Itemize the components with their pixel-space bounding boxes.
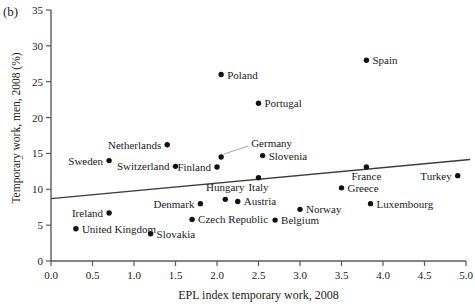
x-tick-label: 4.5 (418, 269, 432, 281)
data-point (272, 217, 277, 222)
data-point-label: Slovakia (157, 228, 196, 240)
data-point-label: Italy (248, 181, 268, 193)
data-point (260, 153, 265, 158)
y-axis-title: Temporary work, men, 2008 (%) (10, 28, 22, 228)
data-point-label: Switzerland (117, 160, 170, 172)
x-tick-label: 2.5 (252, 269, 266, 281)
label-leader-lines (224, 146, 248, 154)
data-point (256, 101, 261, 106)
y-tick-label: 25 (21, 76, 43, 88)
x-tick-label: 5.0 (459, 269, 473, 281)
data-point-label: Portugal (265, 97, 302, 109)
data-point (235, 199, 240, 204)
data-point-label: Luxembourg (377, 198, 434, 210)
data-point (165, 142, 170, 147)
plot-canvas (0, 0, 475, 306)
x-tick-label: 3.0 (293, 269, 307, 281)
data-point-label: France (351, 170, 381, 182)
data-point (106, 158, 111, 163)
data-point-label: Hungary (206, 181, 245, 193)
data-point (256, 175, 261, 180)
y-tick-label: 15 (21, 147, 43, 159)
data-point-label: Czech Republic (198, 213, 268, 225)
data-point (364, 58, 369, 63)
data-point-label: Austria (244, 195, 276, 207)
data-point (339, 185, 344, 190)
data-point (223, 197, 228, 202)
data-point-label: Germany (251, 137, 292, 149)
data-point (106, 210, 111, 215)
y-tick-label: 30 (21, 40, 43, 52)
data-point-label: Netherlands (108, 139, 161, 151)
x-tick-label: 1.0 (127, 269, 141, 281)
data-point-label: Poland (227, 69, 258, 81)
data-point-label: Sweden (68, 155, 103, 167)
data-point-label: Norway (306, 203, 341, 215)
scatter-plot-figure: (b) 05101520253035 0.00.51.01.52.02.53.0… (0, 0, 475, 306)
x-tick-label: 0.0 (44, 269, 58, 281)
data-point-label: Finland (177, 161, 211, 173)
data-point-label: Denmark (153, 198, 194, 210)
data-point (297, 207, 302, 212)
data-point (364, 164, 369, 169)
data-point (218, 72, 223, 77)
data-point (198, 201, 203, 206)
data-point-label: Ireland (72, 207, 103, 219)
x-tick-label: 2.0 (210, 269, 224, 281)
data-point (189, 217, 194, 222)
y-tick-label: 35 (21, 4, 43, 16)
data-point-label: Belgium (281, 214, 319, 226)
data-point (73, 226, 78, 231)
data-point (214, 164, 219, 169)
y-tick-label: 10 (21, 183, 43, 195)
label-leader-line (224, 146, 248, 154)
x-tick-label: 1.5 (169, 269, 183, 281)
data-point (218, 154, 223, 159)
x-tick-label: 4.0 (376, 269, 390, 281)
y-tick-label: 5 (21, 219, 43, 231)
data-point (368, 201, 373, 206)
data-point-label: Slovenia (269, 150, 308, 162)
data-point-label: Turkey (420, 170, 451, 182)
x-tick-label: 0.5 (86, 269, 100, 281)
data-point-label: Spain (372, 54, 397, 66)
x-tick-label: 3.5 (335, 269, 349, 281)
data-point-label: United Kingdom (82, 223, 156, 235)
y-tick-label: 20 (21, 112, 43, 124)
x-axis-title: EPL index temporary work, 2008 (51, 288, 466, 303)
data-point (455, 173, 460, 178)
data-point-label: Greece (348, 182, 379, 194)
y-tick-label: 0 (21, 255, 43, 267)
